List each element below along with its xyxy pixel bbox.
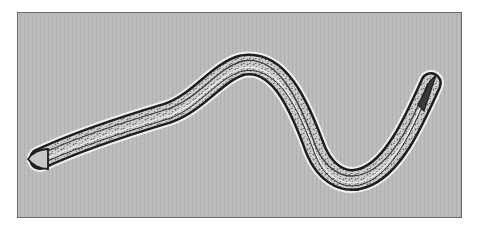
micrograph-frame bbox=[17, 12, 462, 218]
worm-illustration bbox=[18, 13, 462, 218]
background bbox=[18, 13, 462, 218]
